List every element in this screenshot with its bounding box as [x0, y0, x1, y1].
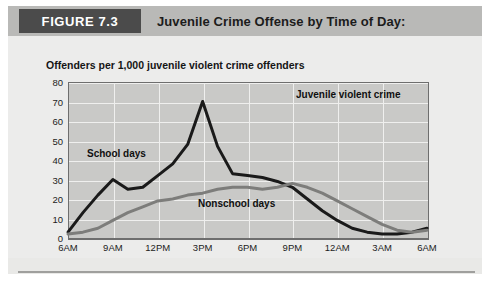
y-axis-tick-label: 30: [52, 174, 63, 185]
figure-number-badge: FIGURE 7.3: [19, 9, 141, 33]
x-axis-tick-label: 12AM: [325, 242, 350, 253]
annotation-nonschool-days: Nonschool days: [198, 198, 275, 209]
series-lines: [68, 82, 427, 238]
y-axis-tick-label: 70: [52, 96, 63, 107]
y-axis-tick-label: 40: [52, 155, 63, 166]
x-axis-tick-label: 9AM: [103, 242, 123, 253]
x-axis-tick-label: 9PM: [283, 242, 303, 253]
x-axis-line: [68, 238, 429, 240]
annotation-juvenile-violent-crime: Juvenile violent crime: [296, 89, 401, 100]
chart-body: Offenders per 1,000 juvenile violent cri…: [8, 36, 482, 258]
y-axis-tick-label: 20: [52, 194, 63, 205]
y-axis-tick-label: 50: [52, 135, 63, 146]
y-axis-tick-label: 60: [52, 116, 63, 127]
x-axis-tick-label: 3PM: [193, 242, 213, 253]
x-axis-tick-label: 3AM: [372, 242, 392, 253]
figure-root: FIGURE 7.3 Juvenile Crime Offense by Tim…: [0, 0, 490, 286]
x-axis-tick-label: 6AM: [417, 242, 437, 253]
chart-subtitle: Offenders per 1,000 juvenile violent cri…: [46, 59, 305, 71]
x-axis-tick-label: 6AM: [58, 242, 78, 253]
footer-rule: [18, 271, 475, 273]
y-axis-tick-label: 80: [52, 77, 63, 88]
y-axis-tick-label: 10: [52, 213, 63, 224]
annotation-school-days: School days: [87, 148, 146, 159]
figure-title: Juvenile Crime Offense by Time of Day:: [157, 9, 405, 33]
x-axis-tick-label: 12PM: [145, 242, 170, 253]
y-axis-labels: 01020304050607080: [8, 82, 63, 238]
x-axis-labels: 6AM9AM12PM3PM6PM9PM12AM3AM6AM: [68, 242, 427, 258]
x-axis-tick-label: 6PM: [238, 242, 258, 253]
